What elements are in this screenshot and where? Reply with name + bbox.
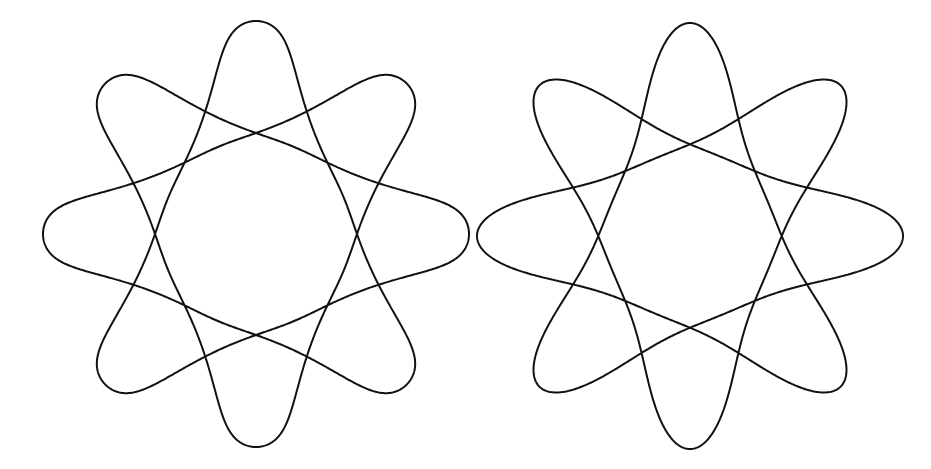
figure-canvas: [0, 0, 931, 469]
left-star-curve: [43, 21, 469, 447]
right-star-curve: [477, 23, 903, 449]
figure-svg: [0, 0, 931, 469]
